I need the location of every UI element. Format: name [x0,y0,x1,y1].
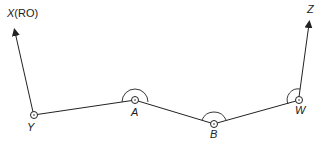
label-b: B [210,128,217,140]
leg-a-b [138,101,211,123]
station-w [296,97,303,104]
angle-arc-b [202,112,226,120]
station-a [132,97,139,104]
sight-line-y-x [15,32,33,112]
traverse-diagram: X(RO) Z Y A B W [0,0,319,143]
leg-y-a [37,101,132,115]
label-x-ro: X(RO) [6,7,38,19]
traverse-lines [37,101,296,124]
station-b [211,121,218,128]
label-z: Z [306,3,315,15]
station-y [31,112,38,119]
leg-b-w [217,101,296,123]
sight-line-w-z [299,24,309,97]
label-w: W [295,104,307,116]
label-y: Y [27,121,35,133]
label-a: A [130,106,138,118]
diagram-svg: X(RO) Z Y A B W [0,0,319,143]
